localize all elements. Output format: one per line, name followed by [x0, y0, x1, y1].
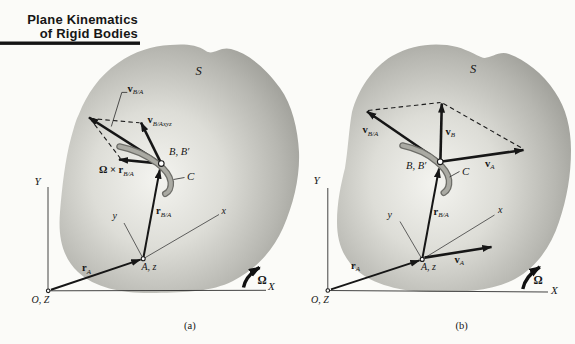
- label-axis-X-b: X: [550, 284, 559, 296]
- label-point-A-b: A, z: [420, 261, 436, 272]
- caption-b: (b): [456, 320, 469, 332]
- vector-vB-b: [440, 104, 441, 162]
- label-point-B-b: B, B′: [406, 160, 427, 171]
- label-curve-C-a: C: [187, 170, 195, 182]
- label-point-B-a: B, B′: [169, 146, 190, 157]
- kinematics-figure-svg: Plane Kinematics of Rigid Bodies: [0, 0, 575, 344]
- title-rule: [0, 42, 140, 45]
- point-origin-a: [46, 289, 50, 293]
- label-axis-x-b: x: [497, 204, 503, 215]
- body-label-b: S: [470, 62, 477, 76]
- page-title-line2: of Rigid Bodies: [40, 26, 138, 41]
- point-B-b: [437, 159, 443, 165]
- label-origin-b: O, Z: [311, 294, 329, 305]
- caption-a: (a): [184, 320, 196, 332]
- label-axis-X-a: X: [267, 280, 276, 292]
- point-origin-b: [326, 289, 330, 293]
- point-B-a: [159, 161, 165, 167]
- label-axis-y-b: y: [387, 209, 393, 220]
- label-axis-y-a: y: [112, 210, 118, 221]
- label-axis-x-a: x: [221, 205, 227, 216]
- textbook-page: Plane Kinematics of Rigid Bodies: [0, 0, 575, 344]
- label-origin-a: O, Z: [32, 294, 50, 305]
- label-omega-b: Ω: [534, 274, 543, 286]
- label-curve-C-b: C: [462, 165, 470, 177]
- axis-X-a: [48, 290, 266, 291]
- label-point-A-a: A, z: [141, 261, 157, 272]
- body-label-a: S: [196, 64, 203, 78]
- label-omega-a: Ω: [258, 274, 267, 286]
